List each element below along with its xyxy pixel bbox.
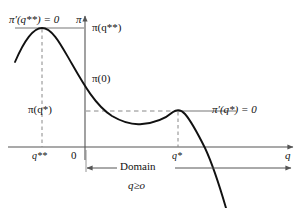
label-pi-prime-q-star-zero: π′(q*) = 0 <box>212 104 257 115</box>
label-origin-zero: 0 <box>71 150 77 161</box>
profit-curve <box>15 28 226 208</box>
label-pi-of-q-double-star: π(q**) <box>92 22 121 33</box>
label-x-axis-q: q <box>285 150 291 161</box>
label-pi-of-zero: π(0) <box>92 73 110 84</box>
label-y-axis-pi: π <box>76 14 82 25</box>
label-pi-of-q-star: π(q*) <box>28 104 52 115</box>
label-domain-condition: q≥o <box>128 180 145 191</box>
label-q-double-star: q** <box>32 151 47 161</box>
label-q-star: q* <box>172 151 182 161</box>
label-pi-prime-q-double-star-zero: π′(q**) = 0 <box>9 14 59 25</box>
profit-function-figure: π′(q**) = 0 π π(q**) π(0) π(q*) π′(q*) =… <box>0 0 305 208</box>
label-domain: Domain <box>120 161 155 172</box>
